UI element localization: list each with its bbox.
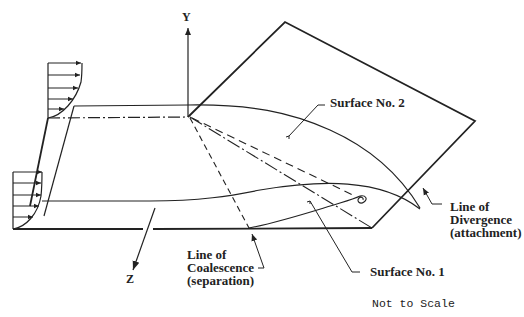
separation-lines: [190, 117, 372, 228]
upper-velocity-profile: [48, 63, 82, 118]
lower-velocity-profile: [13, 172, 42, 229]
z-axis: Z: [126, 208, 155, 286]
vortex-sheet: [249, 196, 366, 228]
flow-separation-diagram: Y Z Surface No. 2: [0, 0, 524, 317]
divergence-callout: Line of Divergence (attachment): [423, 188, 521, 240]
coalescence-label-3: (separation): [187, 273, 254, 288]
y-axis-label: Y: [182, 10, 191, 24]
z-axis-label: Z: [126, 272, 134, 286]
surface1-callout: Surface No. 1: [307, 201, 445, 279]
centerline: [48, 117, 188, 118]
scale-note: Not to Scale: [372, 297, 455, 310]
surface2-label: Surface No. 2: [330, 95, 405, 110]
surface1-label: Surface No. 1: [370, 264, 445, 279]
divergence-label-3: (attachment): [450, 225, 521, 240]
surface2-callout: Surface No. 2: [286, 95, 405, 139]
y-axis: Y: [182, 10, 191, 117]
coalescence-callout: Line of Coalescence (separation): [187, 234, 264, 288]
vertical-plate: [188, 22, 475, 228]
